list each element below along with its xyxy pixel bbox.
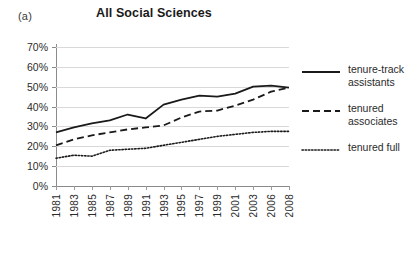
x-tick-label: 1989 [123, 194, 134, 217]
x-tick-mark [235, 186, 236, 190]
x-tick-mark [289, 186, 290, 190]
legend-label-line1: tenure-track [348, 63, 418, 76]
x-tick-mark [199, 186, 200, 190]
legend-swatch-dashed [302, 109, 340, 112]
x-tick-mark [92, 186, 93, 190]
legend-swatch-solid [302, 70, 340, 73]
x-tick-mark [181, 186, 182, 190]
chart-legend: tenure-trackassistantstenuredassociatest… [302, 63, 418, 180]
x-tick-label: 1999 [212, 194, 223, 217]
x-tick-label: 1997 [194, 194, 205, 217]
x-tick-label: 1983 [69, 194, 80, 217]
y-tick-mark [52, 107, 56, 108]
legend-label-line1: tenured [348, 102, 418, 115]
x-tick-label: 2006 [266, 194, 277, 217]
x-tick-mark [253, 186, 254, 190]
x-tick-label: 1981 [51, 194, 62, 217]
y-tick-mark [52, 67, 56, 68]
legend-item-tenure-track-assistants[interactable]: tenure-trackassistants [302, 63, 418, 89]
legend-item-tenured-associates[interactable]: tenuredassociates [302, 102, 418, 128]
x-tick-mark [128, 186, 129, 190]
x-tick-mark [146, 186, 147, 190]
x-tick-label: 1987 [105, 194, 116, 217]
legend-label: tenuredassociates [348, 102, 418, 127]
x-tick-mark [164, 186, 165, 190]
x-tick-label: 1991 [141, 194, 152, 217]
x-tick-label: 1995 [176, 194, 187, 217]
legend-label-line2: associates [348, 115, 418, 128]
legend-label: tenure-trackassistants [348, 63, 418, 88]
x-tick-label: 2001 [230, 194, 241, 217]
legend-label-line2: assistants [348, 76, 418, 89]
x-tick-mark [271, 186, 272, 190]
y-tick-mark [52, 47, 56, 48]
x-tick-label: 2003 [248, 194, 259, 217]
y-tick-mark [52, 87, 56, 88]
x-tick-label: 1985 [87, 194, 98, 217]
y-tick-mark [52, 166, 56, 167]
x-tick-mark [110, 186, 111, 190]
y-tick-mark [52, 146, 56, 147]
x-tick-mark [56, 186, 57, 190]
legend-swatch-dotted [302, 148, 340, 151]
series-line-dashed [56, 88, 289, 146]
y-tick-mark [52, 126, 56, 127]
x-tick-label: 2008 [284, 194, 295, 217]
legend-label-line1: tenured full [348, 141, 418, 154]
x-tick-mark [74, 186, 75, 190]
x-tick-mark [217, 186, 218, 190]
chart-figure: (a) All Social Sciences 70%60%50%40%30%2… [0, 0, 418, 257]
series-line-solid [56, 86, 289, 133]
legend-label: tenured full [348, 141, 418, 154]
legend-item-tenured-full[interactable]: tenured full [302, 141, 418, 167]
x-tick-label: 1993 [159, 194, 170, 217]
